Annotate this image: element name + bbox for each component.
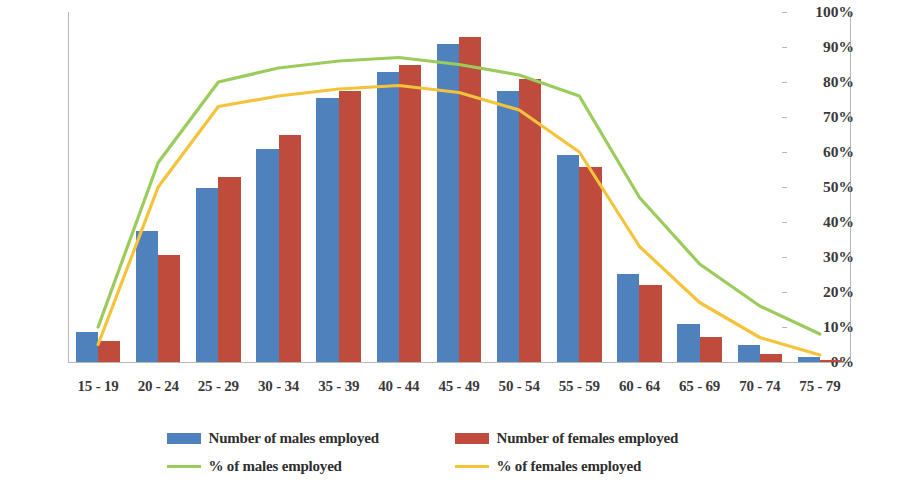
legend-swatch-icon (455, 433, 489, 444)
right-axis-tick-mark (782, 362, 787, 363)
category-label: 40 - 44 (378, 378, 419, 395)
category-label: 55 - 59 (559, 378, 600, 395)
category-label: 60 - 64 (619, 378, 660, 395)
category-axis-line (68, 362, 851, 363)
category-label: 30 - 34 (258, 378, 299, 395)
line-series (98, 58, 820, 335)
category-label: 45 - 49 (438, 378, 479, 395)
legend-line-icon (167, 465, 201, 468)
legend-item-males-percent: % of males employed (167, 458, 455, 475)
category-label: 20 - 24 (138, 378, 179, 395)
category-label: 35 - 39 (318, 378, 359, 395)
category-label: 75 - 79 (799, 378, 840, 395)
lines-layer (68, 12, 850, 362)
legend-label: % of females employed (497, 458, 642, 475)
category-label: 65 - 69 (679, 378, 720, 395)
plot-area (68, 12, 850, 362)
line-series (98, 86, 820, 356)
category-label: 25 - 29 (198, 378, 239, 395)
legend-label: % of males employed (209, 458, 342, 475)
category-label: 15 - 19 (78, 378, 119, 395)
legend-row-lines: % of males employed % of females employe… (0, 452, 921, 480)
legend-label: Number of males employed (209, 430, 379, 447)
category-label: 70 - 74 (739, 378, 780, 395)
legend-line-icon (455, 465, 489, 468)
legend-label: Number of females employed (497, 430, 679, 447)
legend-swatch-icon (167, 433, 201, 444)
chart-legend: Number of males employed Number of femal… (0, 424, 921, 480)
legend-item-females-percent: % of females employed (455, 458, 755, 475)
category-label: 50 - 54 (499, 378, 540, 395)
legend-item-males-count: Number of males employed (167, 430, 455, 447)
legend-row-bars: Number of males employed Number of femal… (0, 424, 921, 452)
employment-by-age-chart: 05001000150020002500300035004000 0%10%20… (0, 0, 921, 485)
legend-item-females-count: Number of females employed (455, 430, 755, 447)
